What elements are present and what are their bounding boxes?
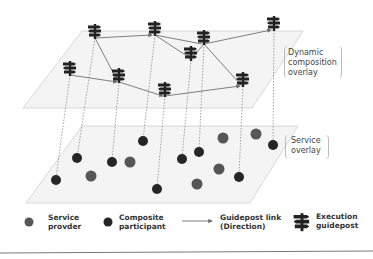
- service-overlay-label: Service overlay: [291, 136, 321, 156]
- legend-service-provider-icon: [25, 218, 34, 227]
- legend-line: Execution: [316, 212, 358, 221]
- legend-line: Composite: [119, 213, 166, 222]
- service-label-line-1: Service: [291, 136, 321, 146]
- service-label-line-2: overlay: [291, 146, 321, 156]
- legend-line: Service: [48, 213, 81, 222]
- legend-composite-participant-label: Composite participant: [119, 213, 166, 231]
- legend-line: provder: [48, 222, 81, 231]
- legend-service-provider-label: Service provder: [48, 213, 81, 231]
- legend-execution-guidepost-label: Execution guidepost: [316, 212, 358, 230]
- dynamic-label-line-1: Dynamic: [288, 48, 337, 58]
- dynamic-label-line-3: overlay: [288, 68, 337, 78]
- dynamic-overlay-label: Dynamic composition overlay: [288, 48, 337, 78]
- legend-execution-guidepost-icon: [294, 213, 310, 231]
- legend-line: (Direction): [220, 222, 281, 231]
- dynamic-label-line-2: composition: [288, 58, 337, 68]
- legend-line: participant: [119, 222, 166, 231]
- legend-composite-participant-icon: [104, 218, 113, 227]
- legend-guidepost-link-label: Guidepost link (Direction): [220, 213, 281, 231]
- legend-line: Guidepost link: [220, 213, 281, 222]
- bottom-divider: [0, 251, 373, 253]
- legend-line: guidepost: [316, 221, 358, 230]
